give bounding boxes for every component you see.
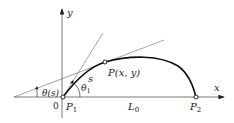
theta1-label: θ1 (81, 83, 91, 95)
theta-s-arc (37, 88, 38, 97)
y-axis-label: y (66, 7, 73, 18)
p1-label: P1 (65, 101, 77, 114)
origin-label: 0 (53, 101, 59, 111)
point-p1 (61, 95, 65, 99)
arc-length-label: s (88, 73, 93, 84)
point-p (103, 60, 107, 64)
theta-s-label: θ(s) (42, 88, 60, 98)
x-axis-label: x (214, 82, 220, 93)
point-p2 (194, 95, 198, 99)
diagram-canvas: y x 0 P1 P2 P(x, y) s θ(s) θ1 L0 (0, 0, 234, 123)
p2-label: P2 (189, 101, 201, 114)
point-p-label: P(x, y) (107, 67, 140, 78)
length-label: L0 (127, 101, 139, 114)
